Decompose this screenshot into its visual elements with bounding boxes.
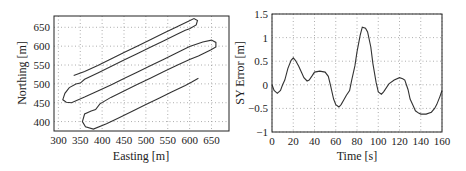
x-tick-label: 100 xyxy=(370,135,387,147)
right-x-ticks: 020406080100120140160 xyxy=(269,135,451,147)
right-grid xyxy=(272,14,442,132)
x-tick-label: 140 xyxy=(413,135,430,147)
left-y-ticks: 400450500550600650 xyxy=(34,21,51,127)
x-tick-label: 450 xyxy=(116,134,133,146)
y-tick-label: 1.5 xyxy=(254,8,268,20)
y-tick-label: 550 xyxy=(34,59,51,71)
y-tick-label: 450 xyxy=(34,97,51,109)
x-tick-label: 500 xyxy=(138,134,155,146)
x-tick-label: 80 xyxy=(352,135,364,147)
right-y-ticks: −1−0.500.511.5 xyxy=(248,8,268,138)
y-tick-label: −0.5 xyxy=(248,102,268,114)
x-tick-label: 40 xyxy=(309,135,321,147)
x-tick-label: 550 xyxy=(160,134,177,146)
left-y-axis-label: Northing [m] xyxy=(15,41,29,105)
y-tick-label: 400 xyxy=(34,116,51,128)
data-line xyxy=(63,19,216,130)
trajectory-chart: 300350400450500550600650 400450500550600… xyxy=(15,16,229,163)
y-tick-label: 0 xyxy=(263,79,269,91)
left-x-ticks: 300350400450500550600650 xyxy=(50,134,220,146)
y-tick-label: 1 xyxy=(263,32,269,44)
x-tick-label: 350 xyxy=(72,134,89,146)
x-tick-label: 20 xyxy=(288,135,300,147)
x-tick-label: 160 xyxy=(434,135,451,147)
x-tick-label: 400 xyxy=(94,134,111,146)
x-tick-label: 120 xyxy=(391,135,408,147)
x-tick-label: 0 xyxy=(269,135,275,147)
y-tick-label: −1 xyxy=(256,126,268,138)
trajectory-line xyxy=(63,19,216,130)
y-tick-label: 500 xyxy=(34,78,51,90)
x-tick-label: 60 xyxy=(330,135,342,147)
x-tick-label: 650 xyxy=(203,134,220,146)
y-tick-label: 600 xyxy=(34,40,51,52)
right-y-axis-label: SY Error [m] xyxy=(233,41,247,105)
left-x-axis-label: Easting [m] xyxy=(113,149,169,163)
y-tick-label: 650 xyxy=(34,21,51,33)
x-tick-label: 300 xyxy=(50,134,67,146)
sy-error-chart: 020406080100120140160 −1−0.500.511.5 Tim… xyxy=(233,8,451,163)
figure: 300350400450500550600650 400450500550600… xyxy=(0,0,466,171)
right-x-axis-label: Time [s] xyxy=(337,149,378,163)
y-tick-label: 0.5 xyxy=(254,55,268,67)
x-tick-label: 600 xyxy=(181,134,198,146)
